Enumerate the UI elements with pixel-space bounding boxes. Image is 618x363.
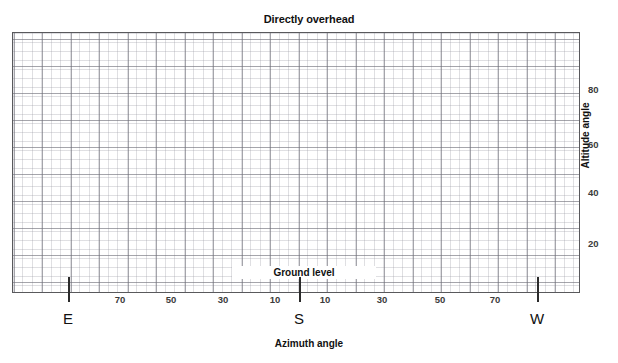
major-gridlines <box>13 33 579 292</box>
cardinal-label-east: E <box>48 310 88 327</box>
x-tick-label: 30 <box>203 294 243 305</box>
ground-level-annotation: Ground level <box>232 266 376 279</box>
x-tick-label: 30 <box>362 294 402 305</box>
y-tick-label: 20 <box>588 238 614 249</box>
y-axis-title: Altitude angle <box>580 91 591 181</box>
x-tick-label: 10 <box>255 294 295 305</box>
chart-title: Directly overhead <box>0 13 618 25</box>
x-axis-title: Azimuth angle <box>0 338 618 349</box>
x-tick-label: 10 <box>305 294 345 305</box>
y-tick-label: 60 <box>588 139 614 150</box>
cardinal-tick-east <box>68 277 70 302</box>
x-tick-label: 50 <box>420 294 460 305</box>
x-tick-label: 70 <box>475 294 515 305</box>
y-tick-label: 40 <box>588 187 614 198</box>
x-tick-label: 70 <box>100 294 140 305</box>
cardinal-label-south: S <box>279 310 319 327</box>
y-tick-label: 80 <box>588 84 614 95</box>
plot-area <box>12 32 580 293</box>
x-tick-label: 50 <box>151 294 191 305</box>
cardinal-tick-south <box>299 277 301 302</box>
cardinal-label-west: W <box>517 310 557 327</box>
cardinal-tick-west <box>537 277 539 302</box>
